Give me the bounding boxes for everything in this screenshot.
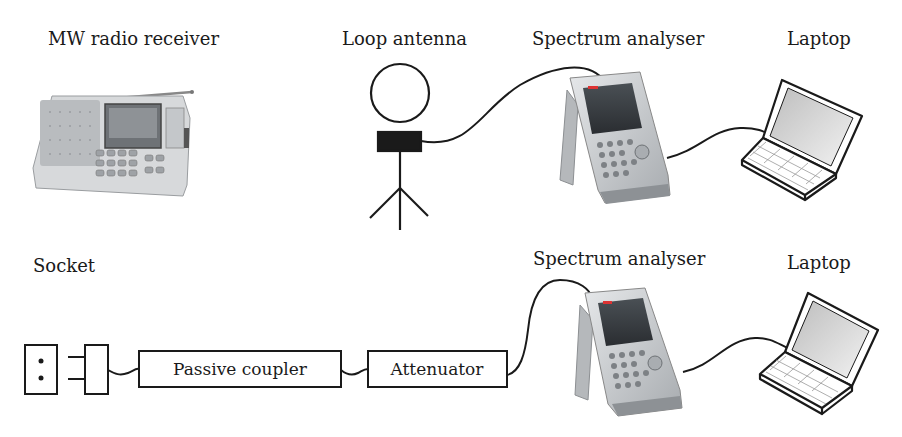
spectrum-analyser-icon-top xyxy=(560,72,670,204)
plug-icon xyxy=(68,345,108,394)
attenuator-label: Attenuator xyxy=(390,359,485,379)
spectrum-analyser-icon-bottom xyxy=(575,288,682,416)
plug-coupler-cable xyxy=(108,369,139,375)
attenuator-box: Attenuator xyxy=(368,351,507,387)
socket-icon xyxy=(25,345,57,394)
passive-coupler-label: Passive coupler xyxy=(173,359,308,379)
loop-antenna-icon xyxy=(370,64,429,230)
measurement-setup-diagram: MW radio receiver Loop antenna Spectrum … xyxy=(0,0,902,437)
radio-receiver-icon xyxy=(33,90,194,196)
laptop-icon-bottom xyxy=(760,293,878,414)
coupler-attenuator-cable xyxy=(341,369,368,375)
passive-coupler-box: Passive coupler xyxy=(139,351,341,387)
diagram-graphics: Passive coupler Attenuator xyxy=(0,0,902,437)
laptop-icon-top xyxy=(742,80,862,200)
